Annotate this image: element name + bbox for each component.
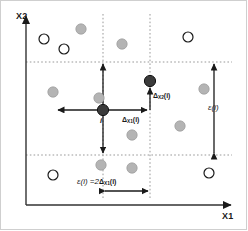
- x-axis-label: X1: [222, 212, 233, 221]
- gray-point: [199, 84, 209, 94]
- epsilon-horizontal-arg: (i): [110, 178, 117, 185]
- epsilon-vertical-label: ε(i): [208, 104, 219, 112]
- epsilon-horizontal-lhs: ε(i) =2: [77, 177, 99, 186]
- open-point: [183, 32, 193, 42]
- gray-point: [96, 160, 106, 170]
- point-i-marker: [97, 104, 108, 115]
- gray-point: [94, 93, 104, 103]
- delta-x1-sub: X1: [127, 119, 133, 124]
- gray-point: [117, 39, 127, 49]
- delta-x2-arg: (i): [164, 92, 171, 99]
- neighbour-point-marker: [144, 75, 155, 86]
- open-point: [48, 170, 58, 180]
- gray-point: [127, 163, 137, 173]
- gray-points-group: [48, 24, 209, 173]
- gray-point: [76, 24, 86, 34]
- epsilon-horizontal-label: ε(i) =2ΔX1(i): [77, 178, 116, 186]
- gray-point: [127, 130, 137, 140]
- epsilon-horizontal-sub: X1: [104, 181, 110, 186]
- open-points-group: [39, 32, 214, 180]
- delta-x1-label: ΔX1(i): [122, 116, 139, 124]
- delta-x1-arg: (i): [133, 116, 140, 123]
- figure-canvas: X2 X1 i ΔX1(i) ΔX2(i) ε(i) ε(i) =2ΔX1(i): [0, 0, 248, 231]
- y-axis-label: X2: [16, 12, 27, 21]
- gray-point: [48, 87, 58, 97]
- gray-point: [175, 121, 185, 131]
- point-i-label: i: [100, 117, 102, 125]
- open-point: [39, 34, 49, 44]
- delta-x2-label: ΔX2(i): [153, 92, 170, 100]
- delta-x2-sub: X2: [158, 95, 164, 100]
- open-point: [59, 44, 69, 54]
- open-point: [204, 168, 214, 178]
